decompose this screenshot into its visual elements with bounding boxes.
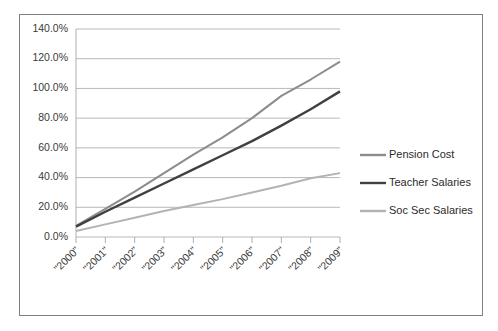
y-axis-tick-labels: 0.0%20.0%40.0%60.0%80.0%100.0%120.0%140.… bbox=[32, 22, 68, 242]
x-axis-tick-label: "2006" bbox=[227, 244, 257, 274]
series-line bbox=[76, 91, 340, 226]
x-axis-tick-label: "2007" bbox=[256, 244, 286, 274]
chart-legend: Pension CostTeacher SalariesSoc Sec Sala… bbox=[360, 148, 473, 216]
y-axis-tick-label: 40.0% bbox=[38, 170, 68, 182]
x-axis-tick-label: "2005" bbox=[198, 244, 228, 274]
y-axis-tick-label: 120.0% bbox=[32, 51, 68, 63]
y-axis-tick-label: 80.0% bbox=[38, 111, 68, 123]
x-axis-tick-label: "2001" bbox=[80, 244, 110, 274]
y-axis-tick-label: 140.0% bbox=[32, 22, 68, 34]
legend-item-label: Teacher Salaries bbox=[389, 176, 471, 188]
chart-frame: 0.0%20.0%40.0%60.0%80.0%100.0%120.0%140.… bbox=[19, 14, 483, 316]
data-series bbox=[76, 62, 340, 231]
line-chart: 0.0%20.0%40.0%60.0%80.0%100.0%120.0%140.… bbox=[20, 15, 482, 315]
y-axis-tick-label: 60.0% bbox=[38, 141, 68, 153]
y-axis-tick-label: 0.0% bbox=[44, 230, 68, 242]
legend-item-label: Soc Sec Salaries bbox=[389, 204, 473, 216]
x-axis-tick-label: "2002" bbox=[110, 244, 140, 274]
y-axis-tick-label: 100.0% bbox=[32, 81, 68, 93]
x-axis-tick-marks bbox=[76, 237, 340, 243]
y-axis-tick-label: 20.0% bbox=[38, 200, 68, 212]
x-axis-tick-label: "2008" bbox=[286, 244, 316, 274]
x-axis-tick-labels: "2000""2001""2002""2003""2004""2005""200… bbox=[51, 244, 345, 274]
x-axis-tick-label: "2009" bbox=[315, 244, 345, 274]
legend-item-label: Pension Cost bbox=[389, 148, 454, 160]
x-axis-tick-label: "2003" bbox=[139, 244, 169, 274]
x-axis-tick-label: "2000" bbox=[51, 244, 81, 274]
x-axis-tick-label: "2004" bbox=[168, 244, 198, 274]
